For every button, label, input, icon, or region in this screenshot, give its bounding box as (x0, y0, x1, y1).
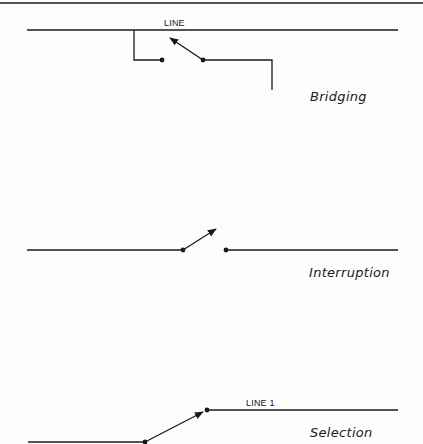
diagram-drawing (0, 0, 423, 444)
bridging-left-branch (134, 30, 162, 60)
fixed-contact-dot (160, 58, 165, 63)
switch-blade-arrow (183, 229, 216, 250)
interruption-caption: Interruption (309, 265, 390, 280)
switch-contact-diagram: LINE Bridging Interruption LINE 1 Select… (0, 0, 423, 444)
bridging-caption: Bridging (310, 89, 367, 104)
switch-blade-arrow (170, 38, 203, 60)
bridging-panel (27, 30, 398, 90)
bridging-right-branch (203, 60, 272, 90)
line-label: LINE (164, 18, 185, 28)
line-1-contact-dot (205, 408, 210, 413)
selection-caption: Selection (310, 425, 373, 440)
switch-blade-arrow (145, 412, 203, 442)
line-1-label: LINE 1 (246, 398, 275, 408)
interruption-panel (27, 229, 398, 252)
